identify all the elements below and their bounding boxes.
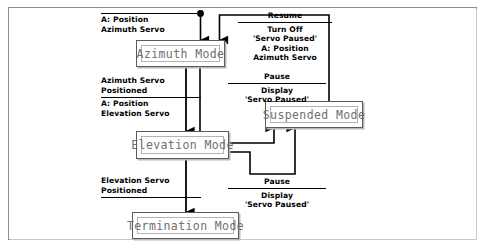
label-elevation-to-termination: Elevation Servo Positioned	[101, 176, 201, 199]
state-termination-mode-label: Termination Mode	[137, 217, 234, 234]
label-rule	[101, 13, 197, 14]
label-rule	[238, 22, 332, 23]
diagram-canvas: Azimuth Mode Elevation Mode Termination …	[0, 0, 486, 250]
label-azimuth-to-elevation: Azimuth Servo Positioned A: Position Ele…	[101, 76, 201, 118]
label-action-line2: Elevation Servo	[101, 109, 201, 119]
label-start-to-azimuth: A: Position Azimuth Servo	[101, 11, 197, 34]
label-action-line1: Turn Off	[238, 25, 332, 35]
label-action-line4: Azimuth Servo	[238, 53, 332, 63]
state-elevation-mode[interactable]: Elevation Mode	[136, 131, 229, 159]
label-azimuth-to-suspended: Pause Display 'Servo Paused'	[228, 72, 326, 105]
label-action-line1: A: Position	[101, 15, 197, 25]
label-trigger-line1: Azimuth Servo	[101, 76, 201, 86]
label-suspended-to-azimuth: Resume Turn Off 'Servo Paused' A: Positi…	[238, 11, 332, 63]
state-azimuth-mode-label: Azimuth Mode	[141, 45, 220, 62]
state-suspended-mode[interactable]: Suspended Mode	[265, 101, 363, 128]
label-rule	[228, 188, 326, 189]
label-action-line3: A: Position	[238, 44, 332, 54]
label-action-line2: 'Servo Paused'	[238, 34, 332, 44]
label-trigger-line1: Elevation Servo	[101, 176, 201, 186]
label-trigger: Pause	[228, 177, 326, 187]
label-elevation-to-suspended: Pause Display 'Servo Paused'	[228, 177, 326, 210]
state-suspended-mode-label: Suspended Mode	[270, 106, 358, 123]
arrow-elevation-to-suspended	[229, 128, 295, 174]
label-action-line2: 'Servo Paused'	[228, 95, 326, 105]
label-trigger-line2: Positioned	[101, 186, 201, 196]
label-rule	[101, 197, 201, 198]
state-termination-mode[interactable]: Termination Mode	[132, 212, 239, 239]
label-trigger: Resume	[238, 11, 332, 21]
label-action-line1: Display	[228, 86, 326, 96]
label-rule	[228, 83, 326, 84]
label-action-line2: Azimuth Servo	[101, 25, 197, 35]
label-action-line2: 'Servo Paused'	[228, 200, 326, 210]
label-action-line1: Display	[228, 191, 326, 201]
label-action-line1: A: Position	[101, 99, 201, 109]
label-trigger: Pause	[228, 72, 326, 82]
label-rule	[101, 97, 201, 98]
state-elevation-mode-label: Elevation Mode	[141, 136, 224, 154]
state-azimuth-mode[interactable]: Azimuth Mode	[136, 40, 225, 67]
label-trigger-line2: Positioned	[101, 86, 201, 96]
